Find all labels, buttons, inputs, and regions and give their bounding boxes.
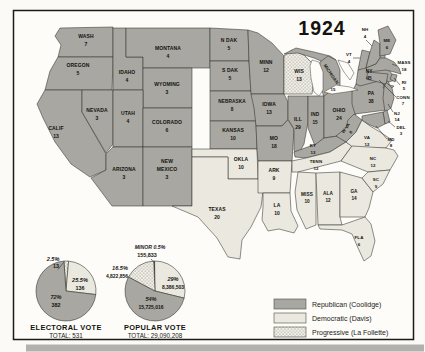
state-name: MO [270,135,278,141]
state-votes: 10 [304,199,310,204]
state-name: VT [346,52,352,57]
state-name: MONTANA [155,45,181,51]
state-votes: 3 [166,174,169,180]
state-name: NEW [161,158,173,164]
state-votes: 5 [77,70,80,76]
state-votes: 12 [314,166,319,171]
state-votes: 8 [231,107,234,112]
state-name: VA [364,135,371,140]
state-name: WASH [78,33,94,39]
state-name: COLORADO [152,119,182,125]
state-votes: 12 [325,198,331,203]
state-name: NEBRASKA [218,99,246,104]
state-name: GA [350,189,358,194]
state-votes: 13 [266,109,272,115]
state-nebraska [210,91,256,121]
pie-val: 4,822,856 [106,273,128,279]
state-votes: 20 [214,214,220,220]
state-name: OKLA [234,156,249,162]
state-name: N DAK [221,37,238,43]
legend-swatch-republican [274,299,306,309]
state-votes: 5 [228,45,231,51]
state-votes: 10 [238,164,244,170]
map-title: 1924 [298,17,345,39]
state-name: IDAHO [119,69,136,75]
state-votes: 12 [371,163,376,168]
pie-val: 136 [76,285,85,291]
legend-swatch-democratic [274,313,306,323]
pie-pct: 72% [50,294,61,300]
state-votes: 18 [271,143,277,149]
state-name: OHIO [332,107,345,113]
state-votes: 4 [127,118,130,124]
state-name: WIS [294,68,304,74]
state-name: TEXAS [208,206,226,212]
state-votes: 9 [273,175,276,181]
legend-label: Republican (Coolidge) [312,301,381,309]
pie-pct: 16.5% [112,265,128,271]
state-votes: 3 [166,89,169,95]
state-votes: 10 [274,210,280,216]
state-name: TENN [310,159,322,164]
state-name: NH [362,27,369,32]
state-votes: 13 [296,76,302,82]
state-name: ARIZONA [112,166,136,172]
state-name: SC [373,177,380,182]
state-name: CONN [396,95,409,100]
legend-layer: Republican (Coolidge)Democratic (Davis)P… [274,299,388,337]
state-name: ME [384,38,391,43]
state-votes: 13 [311,150,316,155]
pie-pct: 54% [145,296,156,302]
state-votes: 18 [402,67,407,72]
state-name: FLA [355,235,365,240]
pie-pct: 2.5% [46,256,60,262]
state-name: MEXICO [157,166,177,172]
state-votes: 15 [331,87,336,92]
state-votes: 3 [96,115,99,121]
state-name: NJ [394,111,400,116]
state-votes: 4 [126,77,129,83]
state-name: KY [310,143,316,148]
state-votes: 7 [85,41,88,47]
state-votes: 10 [230,135,236,141]
state-name: NC [370,156,377,161]
state-name: WYOMING [154,81,180,87]
state-votes: 3 [123,174,126,180]
state-name: ALA [323,191,333,196]
state-name: OREGON [67,62,90,68]
legend-label: Democratic (Davis) [312,315,372,323]
state-votes: 14 [395,117,400,122]
state-name: RI [402,80,407,85]
state-name: LA [274,202,281,208]
pie-sub: TOTAL: 531 [49,332,83,339]
state-name: S DAK [222,67,238,73]
state-name: IOWA [262,101,276,107]
state-name: MINN [259,59,272,65]
state-votes: 29 [295,124,301,130]
state-name: PA [368,91,375,96]
state-votes: 6 [166,127,169,133]
pie-val: 13 [53,263,59,269]
pie-title: ELECTORAL VOTE [30,323,101,332]
state-votes: 45 [366,76,372,81]
election-map-1924: 1924 WASH7OREGON5CALIF13NEVADA3IDAHO4MON… [0,0,425,352]
pie-val: 15,725,016 [138,304,163,310]
state-votes: 13 [53,133,59,139]
state-name: IND [311,112,320,117]
legend-label: Progressive (La Follette) [312,329,388,337]
state-name: MASS [397,60,410,65]
state-votes: 38 [368,99,374,104]
pie-sub: TOTAL: 29,090,208 [128,332,183,339]
state-votes: 12 [365,142,370,147]
state-name: DEL [396,125,405,130]
pie-title: POPULAR VOTE [124,323,186,332]
state-votes: 14 [351,196,357,201]
pie-val: 155,833 [137,252,157,258]
state-name: CALIF [48,125,63,131]
page-edge-shadow [26,345,424,352]
pie-pct: MINOR 0.5% [135,244,166,250]
pie-val: 382 [52,302,61,308]
pie-pct: 29% [166,276,178,282]
pie-pct: 25.5% [71,277,88,283]
state-votes: 4 [167,53,170,59]
